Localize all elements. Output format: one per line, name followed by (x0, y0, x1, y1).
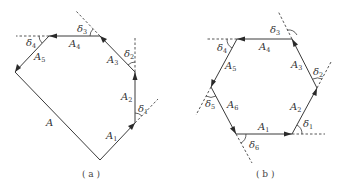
arrow-a2-icon (133, 72, 138, 80)
caption-a: ( a ) (82, 169, 100, 179)
label-b-A2: A2 (289, 101, 301, 114)
arc-delta3 (90, 29, 93, 36)
edge-a (15, 72, 100, 160)
label-b-A6: A6 (226, 99, 238, 112)
panel-b: A1 A2 A3 A4 A5 A6 δ1 δ2 δ3 δ4 δ5 δ6 ( b … (196, 11, 331, 179)
label-b-delta4: δ4 (217, 42, 227, 55)
label-A3: A3 (106, 54, 118, 67)
caption-b: ( b ) (256, 169, 275, 179)
arc-delta2 (128, 62, 135, 65)
arc-delta4 (39, 36, 42, 43)
label-A4: A4 (68, 38, 80, 51)
label-b-A4: A4 (258, 41, 270, 54)
arrow-b4-icon (237, 37, 245, 42)
arc-b-delta3 (287, 30, 297, 35)
label-b-delta2: δ2 (313, 66, 323, 79)
label-delta4: δ4 (26, 37, 36, 50)
label-b-delta5: δ5 (205, 98, 215, 111)
arrow-b1-icon (284, 132, 292, 137)
label-b-A1: A1 (257, 121, 269, 134)
arrow-a4-icon (49, 34, 57, 39)
label-A1: A1 (105, 130, 117, 143)
edge-a1 (100, 123, 135, 160)
label-b-delta1: δ1 (303, 118, 313, 131)
arrow-a5-icon (15, 64, 21, 72)
panel-a: A A1 A2 A3 A4 A5 δ1 δ2 δ3 δ4 ( a ) (15, 11, 158, 179)
label-b-A5: A5 (224, 60, 236, 73)
arc-b-delta6 (241, 134, 246, 143)
polygon-diagrams: A A1 A2 A3 A4 A5 δ1 δ2 δ3 δ4 ( a ) (0, 0, 341, 191)
arrow-b3-icon (292, 39, 298, 47)
label-A2: A2 (120, 91, 132, 104)
label-A5: A5 (33, 51, 45, 64)
label-A: A (45, 117, 53, 128)
label-b-A3: A3 (290, 59, 302, 72)
arc-b-delta1 (297, 125, 302, 134)
label-b-delta3: δ3 (270, 24, 280, 37)
label-delta2: δ2 (124, 48, 134, 61)
label-b-delta6: δ6 (249, 139, 259, 152)
arrow-b6-icon (230, 126, 236, 134)
arc-b-delta4 (227, 39, 232, 48)
label-delta3: δ3 (77, 23, 87, 36)
